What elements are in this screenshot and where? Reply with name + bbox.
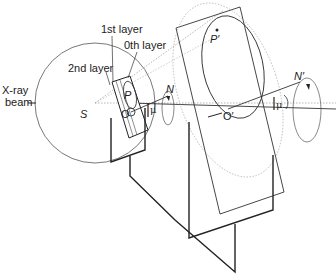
frame-ridge	[208, 113, 222, 117]
label-o: O	[121, 108, 130, 120]
label-p-prime: P′	[210, 33, 220, 45]
axis-line	[128, 103, 336, 109]
label-s: S	[80, 108, 88, 120]
label-o-prime: O′	[223, 110, 234, 122]
label-mu-near: μ	[150, 104, 157, 115]
label-p: P	[124, 89, 132, 101]
label-mu-far: μ	[276, 99, 283, 110]
label-xray: X-ray	[2, 84, 29, 96]
detector-frame	[189, 122, 273, 238]
detector-stem	[175, 220, 235, 272]
holder-stem	[130, 156, 175, 220]
label-n: N	[166, 83, 174, 95]
label-0th-layer: 0th layer	[124, 39, 167, 51]
cone-projection	[153, 0, 304, 191]
label-2nd-layer: 2nd layer	[68, 62, 114, 74]
label-beam: beam	[5, 96, 33, 108]
rotation-ellipse-n-prime	[293, 78, 321, 142]
xray-diffraction-diagram: X-ray beam 1st layer 0th layer 2nd layer…	[0, 0, 336, 280]
label-n-prime: N′	[294, 70, 305, 82]
label-1st-layer: 1st layer	[101, 23, 143, 35]
